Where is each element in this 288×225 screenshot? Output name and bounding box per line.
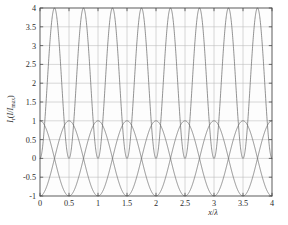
x-tick-label: 2 bbox=[154, 199, 158, 208]
x-tick-labels: 00.511.522.533.54 bbox=[38, 199, 274, 208]
x-tick-label: 2.5 bbox=[180, 199, 190, 208]
y-tick-label: -0.5 bbox=[23, 173, 36, 182]
y-tick-label: 3 bbox=[32, 42, 36, 51]
y-tick-label: 2 bbox=[32, 79, 36, 88]
y-tick-label: 0 bbox=[32, 154, 36, 163]
y-tick-label: -1 bbox=[29, 192, 36, 201]
y-tick-label: 2.5 bbox=[26, 60, 36, 69]
y-tick-label: 4 bbox=[32, 4, 36, 13]
figure-container: 00.511.522.533.54 -1-0.500.511.522.533.5… bbox=[0, 0, 288, 225]
y-tick-label: 1.5 bbox=[26, 98, 36, 107]
y-tick-label: 3.5 bbox=[26, 23, 36, 32]
x-tick-label: 4 bbox=[270, 199, 274, 208]
x-tick-label: 0 bbox=[38, 199, 42, 208]
x-tick-label: 1 bbox=[96, 199, 100, 208]
x-tick-label: 3 bbox=[212, 199, 216, 208]
x-axis-label: x/λ bbox=[207, 208, 218, 217]
x-tick-label: 0.5 bbox=[64, 199, 74, 208]
y-tick-label: 1 bbox=[32, 117, 36, 126]
standing-wave-intensity-chart: 00.511.522.533.54 -1-0.500.511.522.533.5… bbox=[0, 0, 288, 225]
x-tick-label: 1.5 bbox=[122, 199, 132, 208]
y-tick-label: 0.5 bbox=[26, 136, 36, 145]
x-tick-label: 3.5 bbox=[238, 199, 248, 208]
